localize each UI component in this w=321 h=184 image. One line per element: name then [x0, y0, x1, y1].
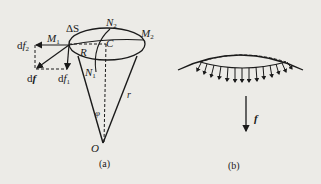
label-f: f: [254, 113, 258, 124]
label-m1: M1: [47, 33, 60, 46]
n1-n2-arc: [95, 29, 110, 72]
cap-lower-arc: [200, 62, 286, 68]
label-m2: M2: [141, 28, 154, 41]
cone-right-side: [103, 56, 137, 143]
df1-arrow: [67, 45, 69, 69]
label-C: C: [106, 38, 113, 49]
diagram-drawing: [0, 0, 321, 184]
label-R: R: [80, 47, 87, 58]
label-r: r: [127, 90, 131, 100]
label-df1: df1: [58, 73, 70, 86]
diagram-canvas: ΔS N2 M1 M2 df2 df df1 R C N1 r φ O (a) …: [0, 0, 321, 184]
label-delta-s: ΔS: [66, 23, 79, 34]
label-phi: φ: [95, 109, 100, 118]
label-O: O: [91, 143, 99, 154]
cap-figure: [178, 55, 303, 131]
label-n2: N2: [106, 17, 117, 30]
label-df: df: [27, 73, 36, 84]
label-df2: df2: [17, 40, 29, 53]
df-arrow: [37, 45, 69, 68]
label-n1: N1: [85, 67, 96, 80]
caption-a: (a): [99, 159, 110, 169]
caption-b: (b): [228, 161, 240, 171]
cone-axis-dashed: [104, 44, 106, 142]
